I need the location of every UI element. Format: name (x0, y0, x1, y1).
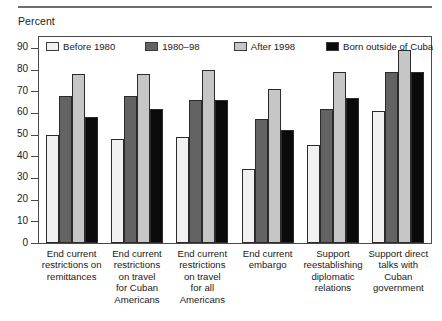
x-axis-category-label-line: on travel (105, 271, 168, 282)
x-axis-category-label-line: relations (301, 282, 364, 293)
y-axis-tick-mark (31, 178, 38, 179)
y-axis-tick-label: 90 (17, 41, 28, 52)
bar-g5-s1 (385, 72, 398, 243)
bar-g2-s3 (215, 100, 228, 243)
bar-g1-s1 (124, 96, 137, 243)
bar-g1-s2 (137, 74, 150, 243)
bar-g5-s2 (398, 50, 411, 243)
x-axis-category-label-5: Support directtalks withCubangovernment (366, 248, 431, 305)
x-axis-category-label-line: government (367, 282, 430, 293)
bar-g0-s2 (72, 74, 85, 243)
x-axis-category-label-line: End current (105, 248, 168, 259)
x-axis-category-label-1: End currentrestrictionson travelfor Cuba… (104, 248, 169, 305)
x-axis-category-label-line: for Cuban (105, 282, 168, 293)
y-axis-tick-mark (31, 91, 38, 92)
y-axis-tick-mark (31, 156, 38, 157)
bar-group-2 (170, 37, 235, 243)
x-axis-category-labels: End currentrestrictions onremittancesEnd… (39, 248, 431, 305)
y-axis-tick-mark (31, 200, 38, 201)
bar-g5-s3 (411, 72, 424, 243)
x-axis-category-label-line: restrictions (105, 259, 168, 270)
bar-g1-s0 (111, 139, 124, 243)
bar-g4-s0 (307, 145, 320, 243)
bar-g2-s1 (189, 100, 202, 243)
bar-g2-s0 (176, 137, 189, 243)
bar-g4-s2 (333, 72, 346, 243)
y-axis-tick-label: 20 (17, 193, 28, 204)
x-axis-category-label-line: End current (236, 248, 299, 259)
y-axis-tick-mark (31, 113, 38, 114)
y-axis-tick-mark (31, 48, 38, 49)
bar-g3-s1 (255, 119, 268, 243)
y-axis-tick-label: 80 (17, 63, 28, 74)
x-axis-category-label-line: Americans (105, 294, 168, 305)
y-axis-tick-label: 40 (17, 150, 28, 161)
bar-group-3 (235, 37, 300, 243)
bar-g4-s1 (320, 109, 333, 243)
x-axis-category-label-line: Americans (171, 294, 234, 305)
x-axis-category-label-line: restrictions on (40, 259, 103, 270)
x-axis-category-label-line: Support (301, 248, 364, 259)
y-axis-tick-mark (31, 70, 38, 71)
bar-g3-s2 (268, 89, 281, 243)
x-axis-category-label-4: Supportreestablishingdiplomaticrelations (300, 248, 365, 305)
bar-group-5 (366, 37, 431, 243)
bar-g5-s0 (372, 111, 385, 243)
y-axis-tick-mark (31, 135, 38, 136)
bar-g3-s0 (242, 169, 255, 243)
bar-g0-s1 (59, 96, 72, 243)
x-axis-category-label-line: End current (171, 248, 234, 259)
y-axis-tick-label: 50 (17, 128, 28, 139)
y-axis: 9080706050403020100 (0, 36, 38, 244)
x-axis-category-label-line: talks with (367, 259, 430, 270)
y-axis-title: Percent (18, 15, 55, 27)
y-axis-tick-label: 0 (22, 237, 28, 248)
x-axis-category-label-2: End currentrestrictionson travelfor allA… (170, 248, 235, 305)
top-divider-rule (18, 6, 432, 8)
y-axis-tick-mark (31, 243, 38, 244)
bar-group-4 (300, 37, 365, 243)
x-axis-category-label-line: embargo (236, 259, 299, 270)
bar-g0-s0 (46, 135, 59, 243)
bar-g2-s2 (202, 70, 215, 243)
x-axis-category-label-line: remittances (40, 271, 103, 282)
y-axis-tick-label: 10 (17, 215, 28, 226)
bars-area (39, 37, 431, 243)
bar-g4-s3 (346, 98, 359, 243)
x-axis-category-label-line: reestablishing (301, 259, 364, 270)
y-axis-tick-label: 70 (17, 85, 28, 96)
bar-g3-s3 (281, 130, 294, 243)
x-axis-category-label-line: restrictions (171, 259, 234, 270)
bar-g0-s3 (85, 117, 98, 243)
x-axis-category-label-line: Cuban (367, 271, 430, 282)
x-axis-category-label-0: End currentrestrictions onremittances (39, 248, 104, 305)
bar-group-1 (104, 37, 169, 243)
x-axis-category-label-line: End current (40, 248, 103, 259)
x-axis-category-label-3: End currentembargo (235, 248, 300, 305)
x-axis-category-label-line: on travel (171, 271, 234, 282)
x-axis-category-label-line: Support direct (367, 248, 430, 259)
chart-page: Percent 9080706050403020100 End currentr… (0, 0, 442, 321)
x-axis-category-label-line: diplomatic (301, 271, 364, 282)
bar-g1-s3 (150, 109, 163, 243)
y-axis-tick-label: 30 (17, 171, 28, 182)
y-axis-tick-mark (31, 221, 38, 222)
bar-group-0 (39, 37, 104, 243)
x-axis-category-label-line: for all (171, 282, 234, 293)
y-axis-tick-label: 60 (17, 106, 28, 117)
